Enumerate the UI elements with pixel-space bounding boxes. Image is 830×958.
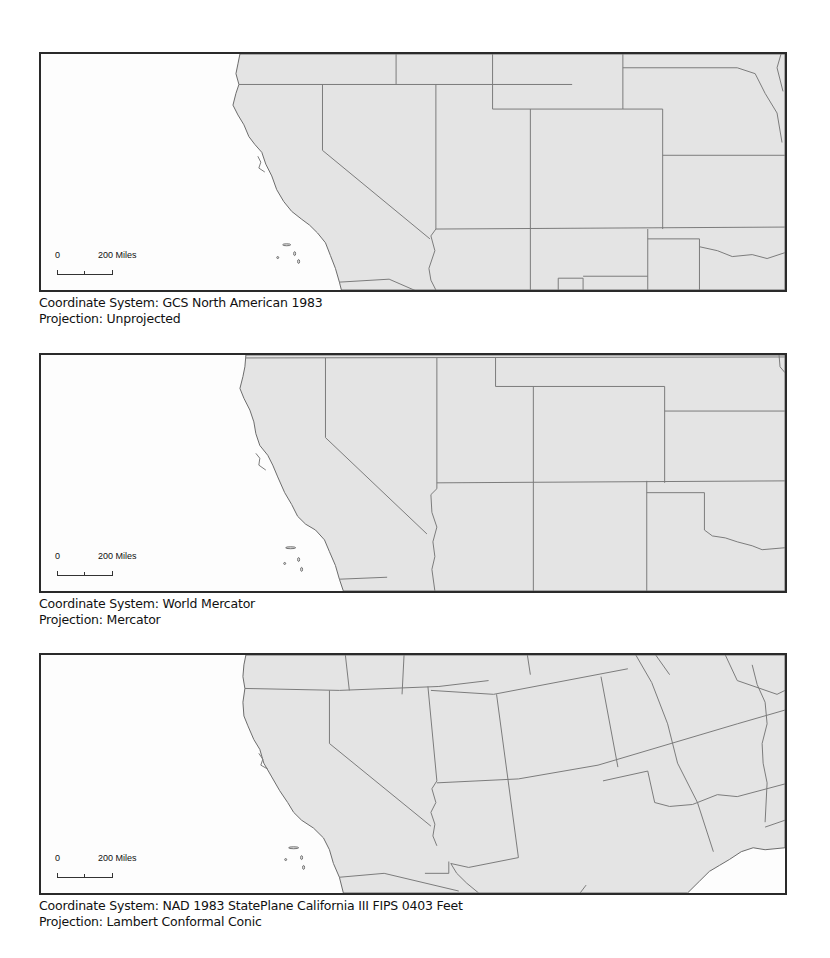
map-panel-lambert: 0 200 Miles Coordinate System: NAD 1983 … [39, 653, 787, 930]
scale-bar-tick [84, 874, 85, 877]
map-caption: Coordinate System: NAD 1983 StatePlane C… [39, 898, 787, 930]
map-western-us-lambert [41, 655, 785, 893]
scale-bar-line [57, 270, 113, 275]
coordinate-system-label: Coordinate System: World Mercator [39, 596, 787, 612]
scale-bar-tick [84, 572, 85, 575]
scale-bar: 0 200 Miles [53, 551, 133, 583]
map-western-us-mercator [41, 355, 785, 591]
coordinate-system-label: Coordinate System: NAD 1983 StatePlane C… [39, 898, 787, 914]
map-caption: Coordinate System: GCS North American 19… [39, 295, 787, 327]
scale-bar: 0 200 Miles [53, 853, 133, 885]
scale-distance-label: 200 Miles [98, 853, 137, 863]
scale-bar-line [57, 571, 113, 576]
scale-bar: 0 200 Miles [53, 250, 133, 282]
map-panel-unprojected: 0 200 Miles Coordinate System: GCS North… [39, 52, 787, 327]
projection-label: Projection: Mercator [39, 612, 787, 628]
map-panel-mercator: 0 200 Miles Coordinate System: World Mer… [39, 353, 787, 628]
scale-bar-line [57, 873, 113, 878]
coordinate-system-label: Coordinate System: GCS North American 19… [39, 295, 787, 311]
map-frame: 0 200 Miles [39, 653, 787, 895]
scale-bar-tick [84, 271, 85, 274]
scale-distance-label: 200 Miles [98, 250, 137, 260]
projection-label: Projection: Unprojected [39, 311, 787, 327]
projection-label: Projection: Lambert Conformal Conic [39, 914, 787, 930]
map-western-us-unprojected [41, 54, 785, 290]
scale-zero-label: 0 [55, 250, 60, 260]
map-frame: 0 200 Miles [39, 353, 787, 593]
scale-zero-label: 0 [55, 551, 60, 561]
scale-zero-label: 0 [55, 853, 60, 863]
map-frame: 0 200 Miles [39, 52, 787, 292]
scale-distance-label: 200 Miles [98, 551, 137, 561]
map-caption: Coordinate System: World Mercator Projec… [39, 596, 787, 628]
